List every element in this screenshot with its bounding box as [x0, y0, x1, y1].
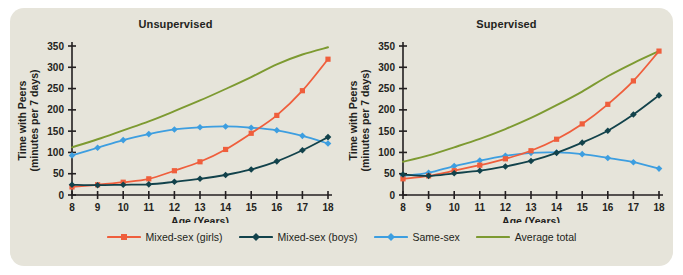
legend-item-mixed-sex-boys: Mixed-sex (boys)	[239, 231, 358, 243]
data-point	[502, 163, 509, 170]
data-point	[274, 113, 279, 118]
data-point	[554, 137, 559, 142]
x-tick-label: 15	[246, 202, 258, 213]
legend-item-mixed-sex-girls: Mixed-sex (girls)	[107, 231, 223, 243]
y-axis-label-line1: Time with Peers	[16, 80, 28, 160]
data-point	[299, 147, 306, 154]
legend-swatch-same-sex	[374, 231, 408, 243]
x-tick-label: 14	[220, 202, 232, 213]
y-tick-label: 300	[47, 62, 64, 73]
y-tick-label: 50	[384, 168, 396, 179]
y-axis-label-line2: (minutes per 7 days)	[28, 69, 40, 171]
x-tick-label: 13	[525, 202, 537, 213]
x-tick-label: 18	[322, 202, 334, 213]
x-tick-label: 15	[577, 202, 589, 213]
x-tick-label: 10	[118, 202, 130, 213]
x-tick-label: 8	[400, 202, 406, 213]
data-point	[325, 57, 330, 62]
data-point	[248, 166, 255, 173]
data-point	[477, 163, 482, 168]
data-point	[605, 155, 612, 162]
legend-marker	[387, 233, 395, 241]
data-point	[197, 176, 204, 183]
chart-panels: Unsupervised 050100150200250300350891011…	[10, 8, 673, 223]
legend-marker	[121, 234, 127, 240]
data-point	[553, 150, 560, 157]
data-point	[197, 159, 202, 164]
data-point	[197, 124, 204, 131]
x-tick-label: 17	[628, 202, 640, 213]
y-tick-label: 0	[389, 190, 395, 201]
legend-item-average-total: Average total	[476, 231, 577, 243]
series-line	[403, 51, 659, 162]
x-tick-label: 11	[475, 202, 486, 213]
y-axis-label: Time with Peers(minutes per 7 days)	[347, 69, 371, 171]
data-point	[579, 139, 586, 146]
data-point	[249, 131, 254, 136]
x-tick-label: 16	[271, 202, 283, 213]
y-tick-label: 350	[47, 41, 64, 52]
figure-card: Unsupervised 050100150200250300350891011…	[10, 8, 673, 266]
x-tick-label: 10	[449, 202, 461, 213]
x-tick-label: 16	[602, 202, 614, 213]
data-point	[222, 123, 229, 130]
legend-item-same-sex: Same-sex	[374, 231, 460, 243]
data-point	[630, 159, 637, 166]
y-tick-label: 200	[47, 104, 64, 115]
y-tick-label: 300	[378, 62, 395, 73]
y-tick-label: 150	[47, 126, 64, 137]
chart-legend: Mixed-sex (girls) Mixed-sex (boys) Same-…	[10, 220, 673, 254]
panel-supervised: Supervised 05010015020025030035089101112…	[341, 8, 672, 223]
data-point	[146, 176, 151, 181]
y-axis-label: Time with Peers(minutes per 7 days)	[16, 69, 40, 171]
y-tick-label: 350	[378, 41, 395, 52]
data-point	[656, 49, 661, 54]
data-point	[120, 137, 127, 144]
x-tick-label: 9	[426, 202, 432, 213]
x-tick-label: 9	[95, 202, 101, 213]
data-point	[477, 167, 484, 174]
series-line	[72, 59, 328, 187]
panel-unsupervised: Unsupervised 050100150200250300350891011…	[10, 8, 341, 223]
y-tick-label: 100	[47, 147, 64, 158]
data-point	[528, 148, 533, 153]
y-tick-label: 50	[53, 168, 65, 179]
plot-unsupervised: 0501001502002503003508910111213141516171…	[10, 8, 341, 223]
data-point	[528, 158, 535, 165]
x-tick-label: 13	[194, 202, 206, 213]
y-tick-label: 250	[47, 83, 64, 94]
x-tick-label: 8	[69, 202, 75, 213]
data-point	[146, 181, 153, 188]
x-tick-label: 12	[500, 202, 512, 213]
y-tick-label: 250	[378, 83, 395, 94]
y-tick-label: 150	[378, 126, 395, 137]
data-point	[146, 131, 153, 138]
y-axis-label-line2: (minutes per 7 days)	[359, 69, 371, 171]
x-tick-label: 11	[144, 202, 155, 213]
legend-label-mixed-sex-girls: Mixed-sex (girls)	[146, 231, 223, 243]
legend-label-mixed-sex-boys: Mixed-sex (boys)	[278, 231, 358, 243]
x-tick-label: 14	[551, 202, 563, 213]
legend-swatch-average-total	[476, 231, 510, 243]
data-point	[605, 102, 610, 107]
data-point	[274, 127, 281, 134]
x-tick-label: 12	[169, 202, 181, 213]
data-point	[248, 124, 255, 131]
data-point	[172, 168, 177, 173]
data-point	[325, 140, 332, 147]
data-point	[656, 165, 663, 172]
y-tick-label: 0	[58, 190, 64, 201]
legend-label-same-sex: Same-sex	[413, 231, 460, 243]
data-point	[94, 144, 101, 151]
data-point	[580, 121, 585, 126]
data-point	[579, 151, 586, 158]
data-point	[274, 158, 281, 165]
y-tick-label: 200	[378, 104, 395, 115]
plot-supervised: 0501001502002503003508910111213141516171…	[341, 8, 672, 223]
x-tick-label: 17	[297, 202, 309, 213]
legend-marker	[252, 233, 260, 241]
y-tick-label: 100	[378, 147, 395, 158]
data-point	[223, 147, 228, 152]
data-point	[222, 172, 229, 179]
series-line	[72, 126, 328, 155]
